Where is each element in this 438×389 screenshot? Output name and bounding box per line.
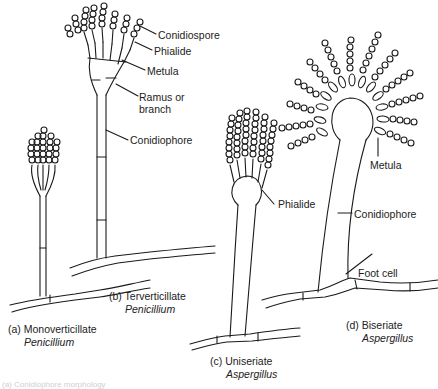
- caption-panel-b-genus: Penicillium: [109, 303, 186, 316]
- caption-panel-d: (d) Biseriate Aspergillus: [346, 319, 413, 345]
- label-metula-d: Metula: [370, 159, 402, 171]
- label-phialide-b: Phialide: [154, 45, 191, 57]
- label-conidiophore-b: Conidiophore: [130, 134, 192, 146]
- panel-d-drawing: [262, 32, 438, 308]
- figure-footer-caption: (a) Conidiophore morphology: [2, 380, 106, 389]
- caption-panel-c-genus: Aspergillus: [210, 368, 277, 381]
- caption-panel-b: (b) Terverticillate Penicillium: [109, 290, 186, 316]
- caption-panel-a-title: (a) Monoverticillate: [8, 323, 97, 335]
- caption-panel-a: (a) Monoverticillate Penicillium: [8, 323, 97, 349]
- label-ramus-line2: branch: [139, 103, 171, 115]
- caption-panel-d-genus: Aspergillus: [346, 332, 413, 345]
- label-ramus-line1: Ramus or: [139, 91, 185, 103]
- label-conidiospore: Conidiospore: [158, 29, 220, 41]
- panel-c-drawing: [190, 108, 300, 350]
- label-phialide-c: Phialide: [278, 198, 315, 210]
- caption-panel-a-genus: Penicillium: [8, 336, 97, 349]
- label-conidiophore-d: Conidiophore: [354, 208, 416, 220]
- caption-panel-c-title: (c) Uniseriate: [210, 355, 272, 367]
- caption-panel-d-title: (d) Biseriate: [346, 319, 403, 331]
- panel-a-drawing: [10, 127, 150, 312]
- caption-panel-c: (c) Uniseriate Aspergillus: [210, 355, 277, 381]
- label-foot-cell: Foot cell: [358, 267, 398, 279]
- label-metula-b: Metula: [147, 65, 179, 77]
- caption-panel-b-title: (b) Terverticillate: [109, 290, 186, 302]
